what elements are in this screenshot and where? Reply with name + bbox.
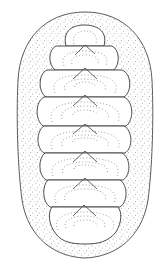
plates: [37, 25, 132, 244]
plate-3: [40, 70, 130, 97]
plate-2: [50, 46, 118, 70]
plate-1: [65, 25, 105, 46]
illustration: chiton (polyplacophoran mollusk), dorsal…: [0, 0, 166, 273]
chiton-drawing: [0, 0, 166, 273]
